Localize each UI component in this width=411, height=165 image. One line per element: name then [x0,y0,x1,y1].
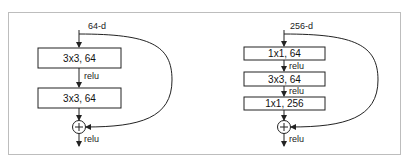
activation-label: relu [289,61,304,71]
activation-label: relu [289,86,304,96]
activation-label: relu [84,71,99,81]
output-activation-label: relu [289,134,304,144]
layer-label: 3x3, 64 [63,93,96,104]
output-activation-label: relu [84,134,99,144]
conv-layer-box: 1x1, 64 [244,47,325,60]
conv-layer-box: 3x3, 64 [244,72,325,86]
conv-layer-box: 3x3, 64 [38,88,121,108]
layer-label: 3x3, 64 [63,53,96,64]
addition-node [73,121,86,134]
addition-node [278,121,291,134]
layer-label: 3x3, 64 [268,74,301,85]
input-dim-label: 64-d [88,21,106,31]
layer-label: 1x1, 64 [268,48,301,59]
basic-residual-block: 64-d 3x3, 64 relu 3x3, 64 relu [38,21,172,146]
conv-layer-box: 3x3, 64 [38,48,121,68]
bottleneck-residual-block: 256-d 1x1, 64 relu 3x3, 64 relu 1x1, 256… [244,21,378,146]
layer-label: 1x1, 256 [265,98,304,109]
input-dim-label: 256-d [290,21,313,31]
conv-layer-box: 1x1, 256 [244,97,325,110]
residual-blocks-diagram: 64-d 3x3, 64 relu 3x3, 64 relu 256-d 1x1… [0,0,411,165]
